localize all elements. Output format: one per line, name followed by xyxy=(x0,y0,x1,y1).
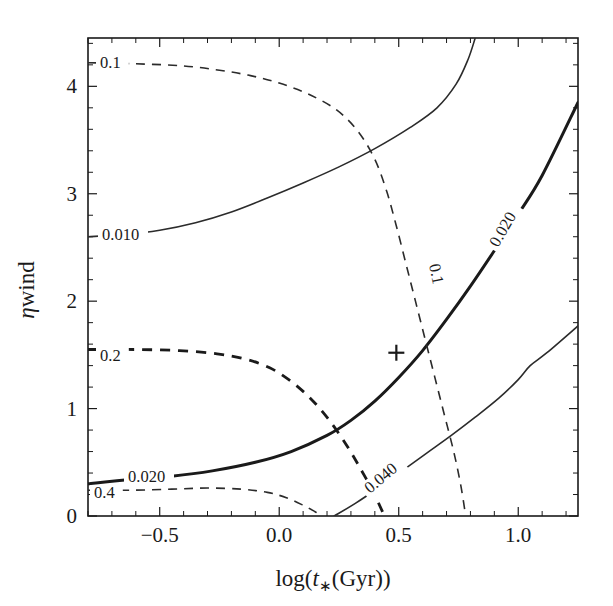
axis-ticks xyxy=(88,38,578,516)
contour-plot: 0.10.0100.20.0200.40.10.0200.040 −0.50.0… xyxy=(0,0,613,606)
y-tick-label: 4 xyxy=(67,74,78,98)
contour-label: 0.4 xyxy=(90,483,123,503)
contour-label-text: 0.4 xyxy=(94,483,115,502)
contour-0_4 xyxy=(88,488,322,516)
y-axis-label: ηwind xyxy=(14,261,39,319)
fiducial-marker xyxy=(388,345,404,361)
y-tick-label: 1 xyxy=(67,397,78,421)
contour-0_1 xyxy=(88,63,466,516)
x-tick-label: 0.0 xyxy=(266,523,292,547)
x-tick-label: 0.5 xyxy=(386,523,412,547)
y-tick-label: 0 xyxy=(67,504,78,528)
contour-0_010 xyxy=(88,38,475,237)
figure-root: 0.10.0100.20.0200.40.10.0200.040 −0.50.0… xyxy=(0,0,613,606)
contour-label-text: 0.020 xyxy=(128,467,165,486)
contour-label: 0.010 xyxy=(98,225,148,245)
contour-label-text: 0.2 xyxy=(100,346,121,365)
contour-label: 0.2 xyxy=(96,346,129,366)
x-tick-label: 1.0 xyxy=(505,523,531,547)
x-axis-label: log(t∗(Gyr)) xyxy=(275,566,390,594)
contour-label: 0.020 xyxy=(124,467,174,487)
y-tick-label: 2 xyxy=(67,289,78,313)
y-tick-label: 3 xyxy=(67,182,78,206)
contour-lines xyxy=(88,38,578,516)
contour-label: 0.1 xyxy=(423,258,449,294)
contour-0_2 xyxy=(88,349,384,516)
contour-label-text: 0.1 xyxy=(100,53,121,72)
plus-marker xyxy=(388,345,404,361)
contour-label-text: 0.010 xyxy=(102,225,139,244)
x-tick-label: −0.5 xyxy=(141,523,179,547)
axes-frame xyxy=(88,38,578,516)
contour-labels: 0.10.0100.20.0200.40.10.0200.040 xyxy=(90,53,525,503)
contour-label: 0.1 xyxy=(96,53,129,73)
contour-label: 0.020 xyxy=(483,201,525,254)
plot-frame xyxy=(88,38,578,516)
